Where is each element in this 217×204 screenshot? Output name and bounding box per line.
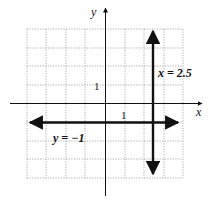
- vertical-line-label: x = 2.5: [157, 66, 192, 80]
- y-tick-label: 1: [94, 80, 100, 92]
- horizontal-line-label: y = −1: [51, 131, 84, 145]
- x-tick-label: 1: [121, 109, 127, 121]
- coordinate-plane: x y 1 1 y = −1 x = 2.5: [0, 0, 217, 204]
- y-axis-label: y: [90, 5, 97, 19]
- x-axis-label: x: [195, 105, 202, 119]
